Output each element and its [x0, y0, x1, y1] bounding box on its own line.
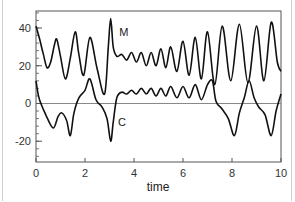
x-tick-label: 8: [229, 167, 235, 179]
y-tick-label: 20: [19, 60, 31, 72]
y-tick-label: 0: [25, 97, 31, 109]
x-axis-ticks: 0246810: [33, 158, 287, 179]
x-tick-label: 2: [82, 167, 88, 179]
x-tick-label: 6: [180, 167, 186, 179]
series-c-label: C: [118, 116, 126, 128]
x-tick-label: 4: [131, 167, 137, 179]
series-m-label: M: [119, 26, 128, 38]
x-axis-title: time: [147, 180, 170, 194]
line-chart: -2002040 0246810 M C time: [0, 0, 295, 202]
series-m-line: [36, 19, 281, 95]
y-axis-ticks: -2002040: [15, 22, 42, 147]
y-tick-label: -20: [15, 135, 31, 147]
y-tick-label: 40: [19, 22, 31, 34]
plot-frame: [36, 11, 281, 162]
x-tick-label: 0: [33, 167, 39, 179]
series-c-line: [36, 79, 281, 141]
x-tick-label: 10: [275, 167, 287, 179]
